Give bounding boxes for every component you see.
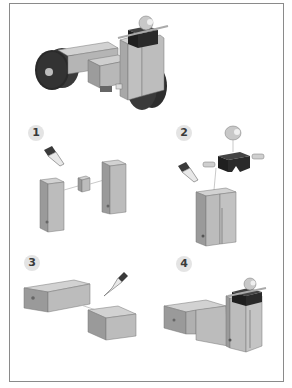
step-4-illustration bbox=[0, 0, 292, 388]
